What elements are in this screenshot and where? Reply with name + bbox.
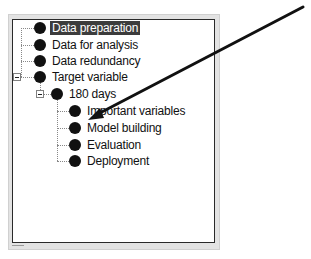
- annotation-arrow-icon: [0, 0, 311, 259]
